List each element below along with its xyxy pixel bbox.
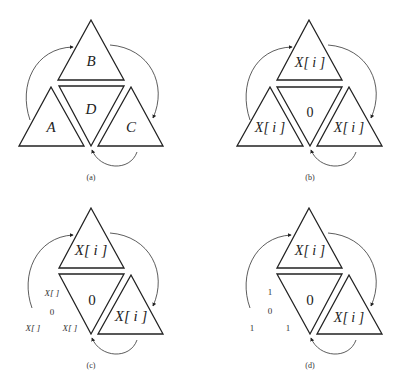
arrow-top-to-right: [110, 233, 158, 306]
caption: (a): [87, 173, 96, 182]
label-center: 0: [307, 105, 314, 120]
label-left: X[ i ]: [254, 120, 285, 135]
arrow-left-to-top: [246, 235, 291, 308]
arrow-right-to-center: [311, 338, 356, 354]
label-center: D: [85, 101, 97, 117]
label-right: X[ i ]: [333, 120, 364, 135]
arrow-right-to-center: [311, 150, 356, 166]
label-top: X[ i ]: [294, 243, 325, 258]
arrow-left-to-top: [246, 47, 292, 120]
panel-c: X[ i ] 0 X[ i ] X[ ] 0 X[ ] X[ ] (c): [25, 208, 163, 370]
arrow-top-to-right: [110, 45, 158, 118]
expanded-top: X[ ]: [44, 288, 60, 298]
expanded-bottom-right: X[ ]: [62, 323, 78, 333]
arrow-right-to-center: [92, 338, 137, 354]
expanded-top: 1: [268, 287, 273, 297]
label-left: A: [45, 119, 56, 135]
expanded-middle: 0: [268, 306, 273, 316]
label-top: B: [86, 53, 95, 69]
arrow-top-to-right: [328, 233, 376, 306]
triangle-top: [59, 208, 124, 268]
panel-d: X[ i ] 0 X[ i ] 1 0 1 1 (d): [246, 208, 382, 370]
expanded-bottom-left: 1: [250, 323, 255, 333]
caption: (c): [87, 361, 96, 370]
label-right: C: [126, 119, 137, 135]
label-top: X[ i ]: [74, 242, 108, 258]
label-top: X[ i ]: [294, 55, 325, 70]
label-center: 0: [306, 292, 314, 308]
label-right: X[ i ]: [333, 310, 364, 325]
triangle-right: [317, 275, 382, 334]
diagram-canvas: B D A C (a) X[ i ] 0 X[ i ] X[ i ] (b) X…: [0, 0, 402, 383]
caption: (d): [305, 361, 315, 370]
expanded-middle: 0: [50, 307, 55, 317]
caption: (b): [305, 173, 315, 182]
arrow-left-to-top: [26, 47, 73, 120]
panel-a: B D A C (a): [19, 20, 163, 182]
triangle-right: [317, 87, 382, 146]
label-center: 0: [88, 292, 96, 308]
triangle-top: [277, 20, 342, 80]
triangle-top: [277, 208, 342, 268]
panel-b: X[ i ] 0 X[ i ] X[ i ] (b): [237, 20, 382, 182]
arrow-top-to-right: [328, 45, 376, 118]
expanded-bottom-right: 1: [286, 323, 291, 333]
arrow-right-to-center: [92, 150, 137, 166]
label-right: X[ i ]: [114, 308, 148, 324]
triangle-top: [58, 20, 124, 80]
expanded-bottom-left: X[ ]: [25, 323, 41, 333]
